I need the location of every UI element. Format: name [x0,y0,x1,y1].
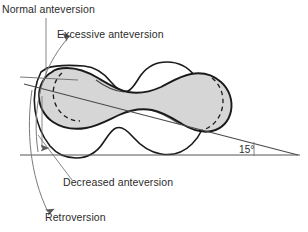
label-normal-anteversion: Normal anteversion [2,4,95,15]
label-angle-value: 15° [239,145,254,155]
label-retroversion: Retroversion [45,212,106,223]
anteversion-diagram: Normal anteversion Excessive anteversion… [0,0,308,232]
label-decreased-anteversion: Decreased anteversion [63,177,173,188]
label-excessive-anteversion: Excessive anteversion [57,29,164,40]
